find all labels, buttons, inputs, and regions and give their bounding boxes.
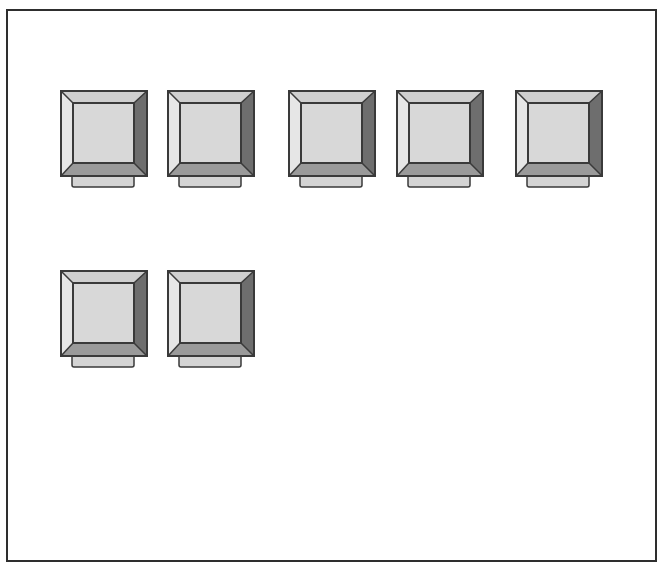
monitor-icon (167, 90, 255, 190)
monitor-icon (515, 90, 603, 190)
monitor-icon (396, 90, 484, 190)
monitor-icon (167, 270, 255, 370)
monitor-tile-r1c3[interactable] (288, 90, 376, 190)
monitor-tile-r1c1[interactable] (60, 90, 148, 190)
monitor-icon (60, 90, 148, 190)
monitor-tile-r1c4[interactable] (396, 90, 484, 190)
monitor-tile-r1c2[interactable] (167, 90, 255, 190)
monitor-tile-r1c5[interactable] (515, 90, 603, 190)
monitor-tile-r2c1[interactable] (60, 270, 148, 370)
monitor-tile-r2c2[interactable] (167, 270, 255, 370)
monitor-icon (288, 90, 376, 190)
monitor-icon (60, 270, 148, 370)
